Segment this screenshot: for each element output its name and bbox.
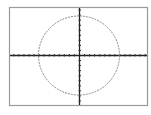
calculator-graph-screen <box>0 0 151 115</box>
